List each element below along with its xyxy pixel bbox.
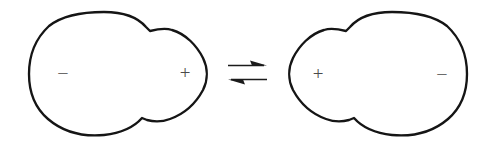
left-blob-negative-charge-label: − <box>57 62 68 84</box>
forward-arrow-head <box>250 61 267 66</box>
forward-reaction-arrow <box>228 61 267 66</box>
figure-canvas: − + + − <box>0 0 493 150</box>
reverse-reaction-arrow <box>228 80 267 85</box>
left-blob-positive-charge-label: + <box>180 62 191 83</box>
state-left-group: − + <box>29 12 207 135</box>
reverse-arrow-head <box>228 80 245 85</box>
state-right-group: + − <box>289 12 467 135</box>
right-blob-negative-charge-label: − <box>436 63 447 85</box>
diagram-svg: − + + − <box>0 0 493 150</box>
right-blob-positive-charge-label: + <box>313 63 324 84</box>
equilibrium-arrow-group <box>228 61 267 85</box>
